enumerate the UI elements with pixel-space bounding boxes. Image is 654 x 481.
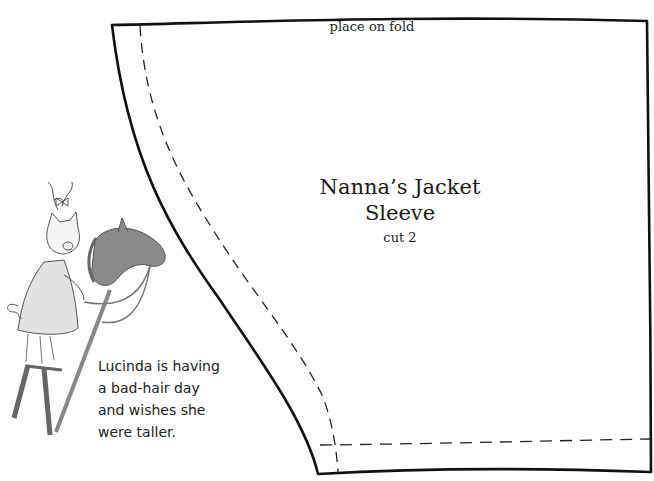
caption-line: and wishes she [98,399,228,421]
caption-line: a bad-hair day [98,377,228,399]
seam-line-hem [320,439,650,445]
place-on-fold-label: place on fold [0,19,654,34]
caption-line: Lucinda is having [98,355,228,377]
pattern-title: Nanna’s Jacket [300,174,500,200]
pattern-piece-name: Sleeve [300,200,500,226]
pattern-title-block: Nanna’s Jacket Sleeve cut 2 [300,174,500,248]
illustration-caption: Lucinda is having a bad-hair day and wis… [98,355,228,443]
cut-instruction: cut 2 [300,228,500,248]
caption-line: were taller. [98,421,228,443]
